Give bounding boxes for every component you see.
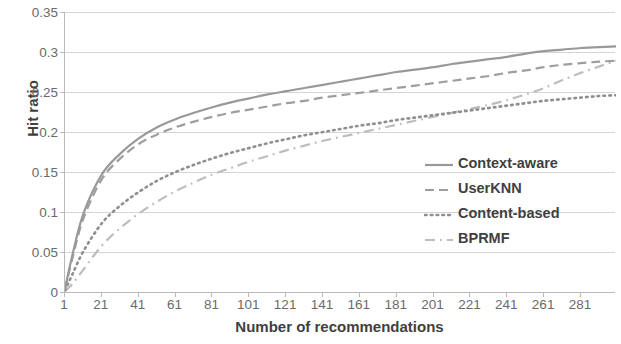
legend-swatch-icon — [424, 232, 454, 244]
x-tick-label: 221 — [458, 297, 481, 312]
legend-item-bprmf[interactable]: BPRMF — [424, 225, 614, 250]
x-tick-label: 1 — [60, 297, 68, 312]
y-tick-label: 0 — [18, 285, 58, 300]
legend-swatch-icon — [424, 157, 454, 169]
x-tick-label: 181 — [384, 297, 407, 312]
y-tick-label: 0.25 — [18, 85, 58, 100]
x-tick-label: 61 — [167, 297, 182, 312]
y-tick-label: 0.1 — [18, 205, 58, 220]
y-axis-tick-labels: 00.050.10.150.20.250.30.35 — [18, 0, 58, 300]
legend-item-userknn[interactable]: UserKNN — [424, 175, 614, 200]
x-axis-tick-labels: 121416181101121141161181201221241261281 — [64, 297, 615, 317]
x-tick-label: 241 — [495, 297, 518, 312]
legend-swatch-icon — [424, 182, 454, 194]
legend-item-context-aware[interactable]: Context-aware — [424, 150, 614, 175]
y-tick-label: 0.15 — [18, 165, 58, 180]
y-tick-label: 0.05 — [18, 245, 58, 260]
x-tick-label: 21 — [93, 297, 108, 312]
x-tick-label: 141 — [311, 297, 334, 312]
hit-ratio-line-chart: Hit ratio 00.050.10.150.20.250.30.35 121… — [0, 0, 621, 344]
x-tick-label: 261 — [532, 297, 555, 312]
x-tick-label: 81 — [204, 297, 219, 312]
legend-swatch-icon — [424, 207, 454, 219]
chart-legend: Context-awareUserKNNContent-basedBPRMF — [424, 150, 614, 250]
x-tick-label: 41 — [130, 297, 145, 312]
x-tick-label: 281 — [569, 297, 592, 312]
legend-label: Content-based — [458, 205, 560, 221]
y-tick-label: 0.3 — [18, 45, 58, 60]
y-tick-label: 0.2 — [18, 125, 58, 140]
legend-label: UserKNN — [458, 180, 522, 196]
x-axis-title: Number of recommendations — [64, 318, 615, 335]
y-tick-label: 0.35 — [18, 5, 58, 20]
legend-label: BPRMF — [458, 230, 510, 246]
x-tick-label: 121 — [274, 297, 297, 312]
legend-label: Context-aware — [458, 155, 558, 171]
x-tick-label: 201 — [421, 297, 444, 312]
x-tick-label: 161 — [348, 297, 371, 312]
x-tick-label: 101 — [237, 297, 260, 312]
legend-item-content-based[interactable]: Content-based — [424, 200, 614, 225]
